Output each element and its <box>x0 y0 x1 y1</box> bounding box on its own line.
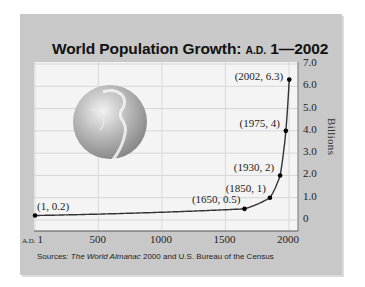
data-point <box>33 213 38 218</box>
x-tick-label: A.D. 1 <box>22 233 43 245</box>
point-label: (1850, 1) <box>226 182 266 194</box>
x-tick-label: 2000 <box>277 233 299 245</box>
chart-svg <box>0 0 365 287</box>
point-label: (2002, 6.3) <box>235 70 284 82</box>
y-tick-label: 2.0 <box>303 167 317 179</box>
point-label: (1, 0.2) <box>37 200 69 212</box>
point-label: (1975, 4) <box>240 117 280 129</box>
x-tick-label: 1500 <box>213 233 235 245</box>
data-point <box>268 195 273 200</box>
data-point <box>278 173 283 178</box>
y-tick-label: 3.0 <box>303 145 317 157</box>
globe-icon <box>73 85 147 160</box>
data-point <box>284 129 289 134</box>
y-axis-title: Billions <box>326 118 338 155</box>
gridlines <box>34 62 298 231</box>
y-tick-label: 4.0 <box>303 123 317 135</box>
y-tick-label: 1.0 <box>303 190 317 202</box>
source-note: Sources: The World Almanac 2000 and U.S.… <box>37 252 274 261</box>
y-tick-label: 0 <box>303 212 309 224</box>
y-tick-label: 6.0 <box>303 78 317 90</box>
point-label: (1650, 0.5) <box>192 193 241 205</box>
y-tick-label: 5.0 <box>303 101 317 113</box>
y-tick-label: 7.0 <box>303 56 317 68</box>
x-tick-label: 500 <box>89 233 106 245</box>
point-label: (1930, 2) <box>234 161 274 173</box>
data-point <box>242 207 247 212</box>
x-tick-label: 1000 <box>150 233 172 245</box>
data-point <box>287 77 292 82</box>
